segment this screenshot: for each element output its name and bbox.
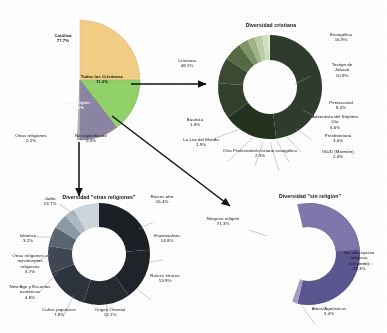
cristiana-name-1: Evangélica [330, 32, 352, 37]
cristiana-label-cristiana: Cristiana 48.1% [166, 58, 208, 69]
otras-value-4: 12.1% [104, 312, 117, 317]
cristiana-value-0: 48.1% [181, 63, 194, 68]
otras-otras-line2: movimientos [17, 258, 42, 263]
cristiana-value-8: 1.9% [196, 142, 206, 147]
otras-label-islamica: Islámica 3.2% [8, 233, 48, 244]
cristiana-name-3: Pentecostal [329, 100, 353, 105]
cristiana-value-3: 8.4% [336, 105, 346, 110]
otras-label-espiritualista: Espiritualista 14.8% [144, 233, 190, 244]
sinreligion-sinads-line3: (creyente) [349, 261, 369, 266]
cristiana-name-7: Otro Protestante/cristiano evangélico [223, 148, 297, 153]
otras-newage-line2: esotéricas [20, 289, 41, 294]
cristiana-label-pentecostal: Pentecostal 8.4% [316, 100, 366, 111]
cristiana-name-5: Presbiteriana [325, 133, 352, 138]
otras-name-4: Origen Oriental [95, 307, 126, 312]
arrow-to-sin-religion [112, 116, 230, 206]
sinreligion-value-2: 5.4% [324, 311, 334, 316]
otras-otras-line1: Otras religiones o [12, 253, 47, 258]
otras-value-3: 13.9% [159, 278, 172, 283]
otras-otras-line3: religiosos [20, 264, 39, 269]
cristiana-label-adventista: Adventista del Séptimo Día 5.6% [293, 114, 377, 130]
sin-religion-label-ateos: Ateos/Agnósticos 5.4% [300, 306, 358, 317]
sinreligion-name-2: Ateos/Agnósticos [312, 306, 347, 311]
sinreligion-name-0: Ninguna religión [207, 216, 240, 221]
cristiana-label-luz-mundo: La Luz del Mundo 1.9% [173, 137, 229, 148]
otras-label-raices-afro: Raíces afro 16.4% [140, 194, 184, 205]
cristiana-adventista-line1: Adventista del Séptimo [312, 114, 358, 119]
otras-value-7: 3.7% [25, 269, 35, 274]
sinreligion-value-0: 71.3% [217, 221, 230, 226]
otras-label-origen-oriental: Origen Oriental 12.1% [85, 307, 135, 318]
otras-name-8: Islámica [20, 233, 37, 238]
otras-name-5: Cultos populares [42, 307, 76, 312]
cristiana-value-4: 5.6% [330, 125, 340, 130]
cristiana-value-2: 10.9% [336, 73, 349, 78]
cristiana-name-9: Bautista [187, 117, 203, 122]
otras-newage-line1: New Age y Escuelas [10, 284, 51, 289]
otras-label-new-age: New Age y Escuelas esotéricas 4.8% [0, 284, 60, 300]
cristiana-testigo-line1: Testigo de [332, 62, 353, 67]
cristiana-name-6: ISUD (Mormón) [322, 149, 353, 154]
sin-religion-label-sin-adscripcion: Sin adscripción religiosa (creyente) 23.… [334, 250, 384, 272]
otras-value-1: 16.4% [156, 199, 169, 204]
cristiana-value-1: 16.9% [335, 37, 348, 42]
cristiana-name-0: Cristiana [178, 58, 196, 63]
cristiana-value-9: 1.9% [190, 122, 200, 127]
infographic-canvas: Católica 77.7% Todas las Cristianas 11.2… [0, 0, 387, 333]
cristiana-adventista-line2: Día [332, 119, 339, 124]
cristiana-testigo-line2: Jehová [335, 67, 349, 72]
otras-name-3: Raíces étnicas [150, 273, 180, 278]
otras-donut-chart [45, 200, 153, 308]
cristiana-label-isud: ISUD (Mormón) 2.4% [305, 149, 371, 160]
cristiana-label-testigo-jehova: Testigo de Jehová 10.9% [318, 62, 366, 78]
cristiana-chart-title: Diversidad cristiana [216, 22, 326, 28]
cristiana-value-6: 2.4% [333, 154, 343, 159]
cristiana-label-otro-protestante: Otro Protestante/cristiano evangélico 2.… [212, 148, 308, 159]
leader-raices-etnicas [137, 289, 151, 300]
otras-value-2: 14.8% [161, 238, 174, 243]
otras-label-cultos-populares: Cultos populares 7.8% [33, 307, 85, 318]
sinreligion-sinads-line1: Sin adscripción [344, 250, 375, 255]
otras-value-0: 23.7% [44, 201, 57, 206]
sin-religion-chart-title: Diversidad "sin religión" [250, 193, 370, 199]
otras-label-otras-movimientos: Otras religiones o movimientos religioso… [1, 253, 59, 275]
otras-value-6: 4.8% [25, 295, 35, 300]
sin-religion-label-ninguna: Ninguna religión 71.3% [196, 216, 250, 227]
otras-label-judio: Judío 23.7% [34, 196, 66, 207]
otras-name-1: Raíces afro [150, 194, 173, 199]
sinreligion-sinads-line2: religiosa [351, 255, 368, 260]
otras-value-5: 7.8% [54, 312, 64, 317]
cristiana-value-5: 3.0% [333, 138, 343, 143]
sinreligion-value-1: 23.3% [353, 266, 366, 271]
otras-name-2: Espiritualista [154, 233, 180, 238]
cristiana-value-7: 2.3% [255, 153, 265, 158]
otras-value-8: 3.2% [23, 238, 33, 243]
otras-name-0: Judío [45, 196, 56, 201]
cristiana-name-8: La Luz del Mundo [183, 137, 219, 142]
otras-label-raices-etnicas: Raíces étnicas 13.9% [142, 273, 188, 284]
cristiana-label-presbiteriana: Presbiteriana 3.0% [309, 133, 367, 144]
cristiana-label-bautista: Bautista 1.9% [177, 117, 213, 128]
cristiana-label-evangelica: Evangélica 16.9% [316, 32, 366, 43]
